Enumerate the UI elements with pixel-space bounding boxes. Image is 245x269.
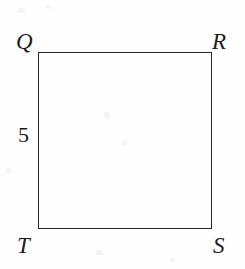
- side-length-label-qt: 5: [18, 124, 29, 146]
- paper-speck: [96, 250, 103, 255]
- geometry-figure: Q R S T 5: [0, 0, 245, 269]
- paper-speck: [170, 258, 175, 262]
- vertex-label-s: S: [213, 234, 225, 257]
- square-outline: [38, 52, 212, 229]
- paper-speck: [18, 8, 25, 13]
- vertex-label-r: R: [212, 30, 226, 53]
- vertex-label-q: Q: [16, 30, 33, 53]
- paper-speck: [46, 5, 51, 9]
- vertex-label-t: T: [17, 234, 30, 257]
- paper-speck: [6, 168, 11, 173]
